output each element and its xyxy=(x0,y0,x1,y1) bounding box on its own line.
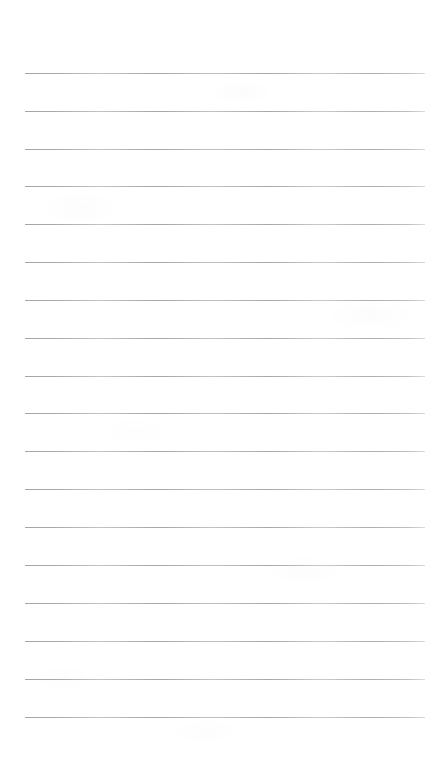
rule-line xyxy=(25,451,425,452)
rule-line xyxy=(25,376,425,377)
rule-line xyxy=(25,111,425,112)
rule-line xyxy=(25,603,425,604)
rule-line xyxy=(25,338,425,339)
rule-line xyxy=(25,186,425,187)
rule-line xyxy=(25,73,425,74)
rule-line xyxy=(25,527,425,528)
rule-line xyxy=(25,565,425,566)
rule-line xyxy=(25,300,425,301)
rule-line xyxy=(25,489,425,490)
rule-line xyxy=(25,641,425,642)
rule-line xyxy=(25,262,425,263)
rule-line xyxy=(25,224,425,225)
lined-paper-page xyxy=(0,0,447,770)
rule-line xyxy=(25,149,425,150)
rule-line xyxy=(25,413,425,414)
paper-texture-overlay xyxy=(0,0,447,770)
rule-line xyxy=(25,717,425,718)
rule-line xyxy=(25,679,425,680)
